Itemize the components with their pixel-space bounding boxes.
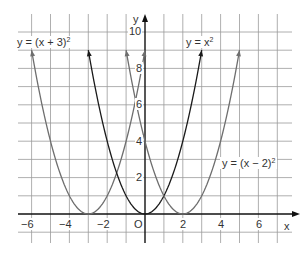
curve-label-text: y = (x + 3) [17, 36, 67, 48]
curves [30, 50, 241, 214]
curve-arrow-icon [87, 50, 92, 56]
curve-label-text: y = x [186, 36, 210, 48]
curve-label-x-squared: y = x2 [184, 36, 215, 48]
x-tick-label: 6 [255, 218, 263, 230]
y-tick-label: 4 [135, 135, 143, 147]
origin-label: O [133, 218, 144, 230]
curve-label-x-plus-3: y = (x + 3)2 [15, 36, 72, 48]
y-axis-label: y [133, 13, 139, 25]
curve-arrow-icon [30, 50, 35, 56]
y-tick-label: 10 [128, 25, 142, 37]
curve-label-x-minus-2: y = (x − 2)2 [220, 157, 277, 169]
y-tick-label: 6 [135, 98, 143, 110]
x-tick-label: 2 [179, 218, 187, 230]
x-axis-label: x [284, 220, 290, 232]
curve-label-exponent: 2 [272, 157, 276, 164]
x-tick-label: 4 [217, 218, 225, 230]
y-tick-label: 2 [135, 171, 143, 183]
x-tick-label: −6 [20, 218, 35, 230]
x-tick-label: −2 [96, 218, 111, 230]
curve-label-exponent: 2 [210, 36, 214, 43]
axes [18, 14, 300, 243]
x-axis-arrow-icon [292, 211, 300, 217]
curve-arrow-icon [236, 50, 241, 56]
curve-arrow-icon [125, 50, 130, 56]
y-axis-arrow-icon [142, 14, 148, 22]
x-tick-label: −4 [58, 218, 73, 230]
y-tick-label: 8 [135, 62, 143, 74]
curve-label-exponent: 2 [67, 36, 71, 43]
curve-arrow-icon [198, 50, 203, 56]
curve-label-text: y = (x − 2) [222, 157, 272, 169]
